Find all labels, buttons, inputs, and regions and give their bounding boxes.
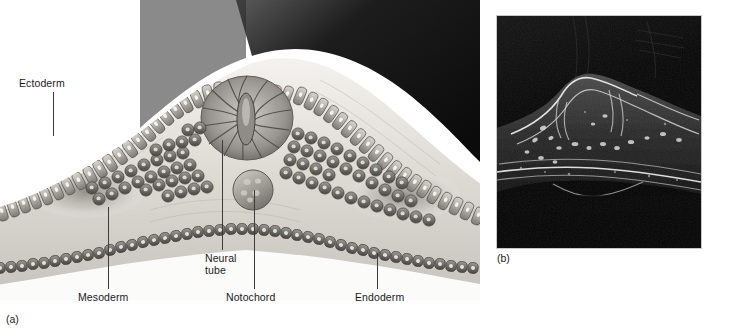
leader-line-mesoderm: [108, 207, 109, 289]
leader-line-neural-tube: [222, 140, 223, 250]
panel-tag-a: (a): [6, 313, 19, 325]
label-ectoderm: Ectoderm: [19, 77, 65, 89]
label-mesoderm: Mesoderm: [78, 291, 128, 303]
label-neural-tube: Neural tube: [205, 252, 237, 276]
neural-tube-structure: [201, 76, 293, 160]
panel-a-illustration: Ectoderm Mesoderm Neural tube Notochord …: [0, 0, 480, 334]
panel-tag-b: (b): [497, 252, 510, 264]
leader-line-endoderm: [377, 253, 378, 289]
leader-line-notochord: [254, 190, 255, 289]
figure-neurulation: Ectoderm Mesoderm Neural tube Notochord …: [0, 0, 734, 334]
leader-line-ectoderm: [53, 92, 54, 136]
label-notochord: Notochord: [226, 291, 275, 303]
panel-b-micrograph: (b): [488, 6, 708, 254]
embryo-cross-section-drawing: [0, 0, 480, 300]
label-endoderm: Endoderm: [355, 291, 404, 303]
micrograph-image: [496, 15, 702, 249]
notochord-structure: [233, 170, 273, 210]
